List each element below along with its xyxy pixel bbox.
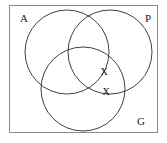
region-mark-1: X	[100, 66, 108, 77]
region-mark-2: X	[102, 86, 110, 97]
venn-diagram-canvas: A P G X X	[0, 0, 167, 143]
set-label-g: G	[137, 115, 145, 127]
set-label-a: A	[20, 12, 28, 24]
set-label-p: P	[145, 12, 151, 24]
venn-diagram-svg: A P G X X	[0, 0, 167, 143]
universal-set-rectangle	[10, 6, 158, 133]
